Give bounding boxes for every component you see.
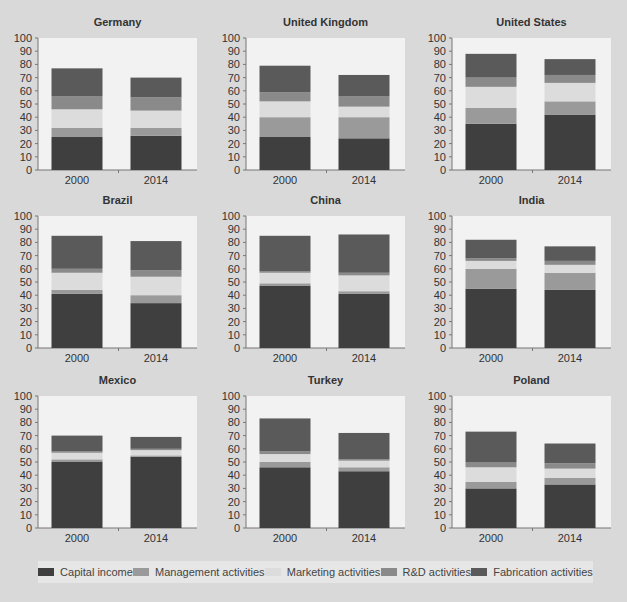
y-tick-label: 10: [20, 329, 32, 341]
y-tick-label: 50: [228, 456, 240, 468]
bar-segment-capital-income-2000: [466, 289, 517, 348]
y-tick-label: 80: [20, 416, 32, 428]
bar-segment-capital-income-2014: [339, 138, 390, 170]
bar-segment-management-activities-2014: [131, 295, 182, 303]
y-tick-label: 20: [20, 316, 32, 328]
bar-segment-fabrication-activities-2000: [466, 432, 517, 462]
x-tick-label: 2000: [273, 352, 297, 364]
legend-label: R&D activities: [403, 566, 471, 578]
x-tick-label: 2000: [479, 352, 503, 364]
y-tick-label: 40: [434, 289, 446, 301]
y-tick-label: 30: [20, 482, 32, 494]
y-tick-label: 70: [228, 72, 240, 84]
y-tick-label: 80: [20, 58, 32, 70]
y-tick-label: 40: [228, 289, 240, 301]
y-tick-label: 30: [20, 124, 32, 136]
y-tick-label: 100: [428, 390, 446, 402]
bar-segment-management-activities-2000: [52, 459, 103, 462]
y-tick-label: 60: [228, 443, 240, 455]
y-tick-label: 90: [228, 223, 240, 235]
y-tick-label: 0: [26, 164, 32, 176]
legend-swatch: [38, 568, 54, 576]
bar-segment-management-activities-2000: [466, 269, 517, 289]
bar-segment-marketing-activities-2000: [260, 454, 311, 462]
x-tick-label: 2000: [479, 532, 503, 544]
bar-segment-management-activities-2014: [545, 101, 596, 114]
panel-mexico: Mexico010203040506070809010020002014: [0, 366, 205, 546]
bar-segment-capital-income-2014: [339, 294, 390, 348]
y-tick-label: 50: [228, 98, 240, 110]
y-tick-label: 100: [222, 210, 240, 222]
x-tick-label: 2014: [558, 174, 582, 186]
x-tick-label: 2014: [558, 352, 582, 364]
y-tick-label: 60: [20, 443, 32, 455]
bar-segment-fabrication-activities-2014: [131, 437, 182, 449]
y-tick-label: 90: [434, 223, 446, 235]
y-tick-label: 60: [228, 85, 240, 97]
y-tick-label: 20: [228, 138, 240, 150]
bar-segment-management-activities-2014: [131, 455, 182, 456]
bar-segment-r-d-activities-2000: [52, 451, 103, 452]
y-tick-label: 50: [20, 276, 32, 288]
panel-poland: Poland010203040506070809010020002014: [414, 366, 619, 546]
y-tick-label: 50: [434, 98, 446, 110]
bar-segment-marketing-activities-2014: [131, 277, 182, 295]
bar-segment-marketing-activities-2014: [545, 469, 596, 478]
y-tick-label: 30: [434, 302, 446, 314]
bar-segment-marketing-activities-2014: [339, 461, 390, 468]
y-tick-label: 90: [228, 403, 240, 415]
y-tick-label: 100: [428, 210, 446, 222]
panel-brazil: Brazil010203040506070809010020002014: [0, 186, 205, 366]
y-tick-label: 40: [228, 111, 240, 123]
x-tick-label: 2000: [65, 532, 89, 544]
panel-turkey: Turkey010203040506070809010020002014: [208, 366, 413, 546]
bar-segment-management-activities-2014: [339, 117, 390, 138]
y-tick-label: 100: [14, 210, 32, 222]
bar-segment-r-d-activities-2014: [131, 449, 182, 450]
bar-segment-fabrication-activities-2000: [52, 236, 103, 269]
bar-segment-marketing-activities-2000: [260, 273, 311, 284]
bar-segment-fabrication-activities-2000: [52, 68, 103, 96]
bar-segment-marketing-activities-2014: [339, 107, 390, 118]
y-tick-label: 20: [20, 138, 32, 150]
y-tick-label: 30: [228, 124, 240, 136]
panel-title: Germany: [94, 16, 143, 28]
y-tick-label: 50: [20, 456, 32, 468]
bar-segment-capital-income-2014: [339, 471, 390, 528]
y-tick-label: 100: [428, 32, 446, 44]
legend-label: Marketing activities: [287, 566, 381, 578]
x-tick-label: 2014: [144, 352, 168, 364]
bar-segment-r-d-activities-2014: [131, 270, 182, 277]
bar-segment-capital-income-2014: [545, 115, 596, 170]
panel-title: United States: [496, 16, 566, 28]
bar-segment-r-d-activities-2014: [545, 75, 596, 83]
panel-svg: Germany010203040506070809010020002014: [0, 8, 205, 188]
bar-segment-r-d-activities-2000: [260, 451, 311, 454]
bar-segment-fabrication-activities-2014: [545, 444, 596, 464]
panel-title: Mexico: [99, 374, 137, 386]
bar-segment-r-d-activities-2014: [339, 96, 390, 107]
y-tick-label: 30: [228, 482, 240, 494]
y-tick-label: 60: [434, 85, 446, 97]
legend-swatch: [265, 568, 281, 576]
panel-united-kingdom: United Kingdom01020304050607080901002000…: [208, 8, 413, 188]
y-tick-label: 70: [20, 72, 32, 84]
y-tick-label: 60: [228, 263, 240, 275]
y-tick-label: 40: [20, 469, 32, 481]
y-tick-label: 70: [20, 250, 32, 262]
bar-segment-management-activities-2014: [339, 467, 390, 471]
bar-segment-fabrication-activities-2014: [339, 75, 390, 96]
bar-segment-fabrication-activities-2000: [260, 418, 311, 451]
y-tick-label: 10: [228, 151, 240, 163]
x-tick-label: 2000: [65, 174, 89, 186]
legend-label: Fabrication activities: [493, 566, 593, 578]
bar-segment-r-d-activities-2014: [131, 97, 182, 110]
bar-segment-management-activities-2014: [545, 273, 596, 290]
bar-segment-r-d-activities-2000: [260, 92, 311, 101]
legend-label: Capital income: [60, 566, 133, 578]
y-tick-label: 70: [228, 250, 240, 262]
panel-germany: Germany010203040506070809010020002014: [0, 8, 205, 188]
bar-segment-r-d-activities-2000: [466, 78, 517, 87]
bar-segment-capital-income-2000: [466, 124, 517, 170]
x-tick-label: 2014: [352, 352, 376, 364]
